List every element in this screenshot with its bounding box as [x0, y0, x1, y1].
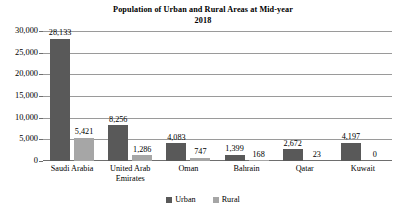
y-axis-label: 15,000	[0, 92, 38, 100]
y-axis-tick	[39, 96, 43, 97]
y-axis-tick	[39, 118, 43, 119]
bar-group: 4,1970	[341, 31, 385, 161]
y-axis-label: 10,000	[0, 114, 38, 122]
chart-title: Population of Urban and Rural Areas at M…	[0, 4, 406, 26]
legend-item-rural[interactable]: Rural	[213, 196, 240, 204]
legend-item-urban[interactable]: Urban	[166, 196, 195, 204]
bar-rural[interactable]	[74, 138, 94, 161]
bar-value-label: 0	[358, 151, 392, 159]
bar-urban[interactable]	[50, 39, 70, 161]
gridline	[43, 118, 392, 119]
chart-title-line-1: Population of Urban and Rural Areas at M…	[113, 5, 293, 14]
bar-rural[interactable]	[190, 158, 210, 161]
x-axis-category-label: Saudi Arabia	[43, 164, 101, 174]
legend-label: Urban	[175, 196, 195, 204]
bar-value-label: 4,197	[334, 133, 368, 141]
y-axis-label: 30,000	[0, 27, 38, 35]
gridline	[43, 53, 392, 54]
y-axis-label: 0	[0, 157, 38, 165]
x-axis-category-label: United ArabEmirates	[101, 164, 159, 183]
y-axis-tick	[39, 139, 43, 140]
bar-rural[interactable]	[249, 160, 269, 161]
gridline	[43, 31, 392, 32]
bar-value-label: 28,133	[43, 29, 77, 37]
chart-container: Population of Urban and Rural Areas at M…	[0, 0, 406, 215]
category-label-line: Kuwait	[351, 164, 375, 173]
bar-value-label: 5,421	[67, 128, 101, 136]
bar-value-label: 8,256	[101, 116, 135, 124]
x-axis-category-label: Bahrain	[218, 164, 276, 174]
x-axis-category-label: Kuwait	[334, 164, 392, 174]
y-axis-label: 5,000	[0, 135, 38, 143]
plot-area: 28,1335,4218,2561,2864,0837471,3991682,6…	[43, 31, 392, 161]
bar-group: 28,1335,421	[50, 31, 94, 161]
bar-group: 1,399168	[225, 31, 269, 161]
legend-label: Rural	[222, 196, 240, 204]
y-axis-label: 20,000	[0, 70, 38, 78]
category-label-line: Oman	[178, 164, 198, 173]
category-label-line: United Arab	[110, 164, 150, 173]
x-axis-category-label: Qatar	[276, 164, 334, 174]
bar-value-label: 4,083	[159, 134, 193, 142]
category-label-line: Saudi Arabia	[51, 164, 94, 173]
x-axis-category-label: Oman	[159, 164, 217, 174]
gridline	[43, 96, 392, 97]
category-label-line: Emirates	[101, 174, 159, 184]
y-axis-tick	[39, 74, 43, 75]
y-axis-tick	[39, 161, 43, 162]
bar-group: 4,083747	[166, 31, 210, 161]
gridline	[43, 74, 392, 75]
bar-rural[interactable]	[132, 155, 152, 161]
bar-urban[interactable]	[108, 125, 128, 161]
x-axis-line	[43, 160, 392, 161]
chart-title-line-2: 2018	[0, 15, 406, 26]
bar-value-label: 1,286	[125, 146, 159, 154]
y-axis-label: 25,000	[0, 49, 38, 57]
chart-legend: UrbanRural	[0, 196, 406, 204]
category-label-line: Qatar	[296, 164, 314, 173]
legend-swatch-icon	[166, 197, 172, 203]
bar-group: 8,2561,286	[108, 31, 152, 161]
bar-value-label: 2,672	[276, 140, 310, 148]
bar-value-label: 23	[300, 151, 334, 159]
category-label-line: Bahrain	[234, 164, 260, 173]
bar-value-label: 747	[183, 148, 217, 156]
bar-value-label: 168	[242, 151, 276, 159]
y-axis-tick	[39, 53, 43, 54]
legend-swatch-icon	[213, 197, 219, 203]
bar-group: 2,67223	[283, 31, 327, 161]
